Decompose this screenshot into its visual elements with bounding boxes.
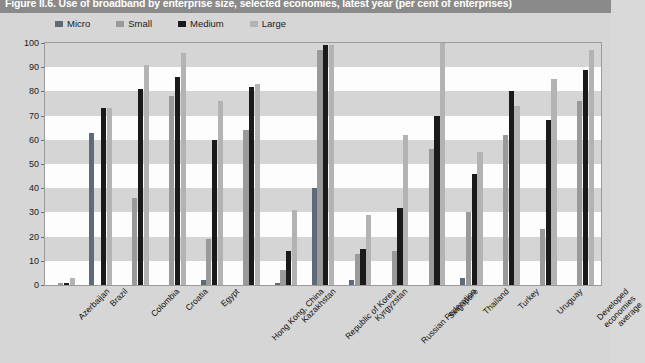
bar-group [571, 43, 594, 285]
bar-group [497, 43, 520, 285]
y-axis-tick-label: 50 [1, 159, 39, 169]
bar-large [218, 101, 223, 285]
bar-large [255, 84, 260, 285]
bar-small [466, 212, 471, 285]
bar-large [107, 108, 112, 285]
x-axis-label: Turkey [517, 287, 542, 312]
y-axis-tick-label: 20 [1, 232, 39, 242]
legend-swatch-icon [178, 21, 186, 27]
bar-micro [201, 280, 206, 285]
bar-group [52, 43, 75, 285]
y-axis-tick-label: 30 [1, 207, 39, 217]
bar-medium [138, 89, 143, 285]
bar-small [503, 135, 508, 285]
y-axis-tick-label: 80 [1, 86, 39, 96]
bar-small [429, 149, 434, 285]
bar-medium [434, 116, 439, 285]
y-axis-tick-label: 70 [1, 111, 39, 121]
bar-small [280, 270, 285, 285]
y-axis-tick-label: 0 [1, 280, 39, 290]
bar-large [329, 45, 334, 285]
bar-group [460, 43, 483, 285]
legend-swatch-icon [250, 21, 258, 27]
plot-area [44, 42, 602, 286]
bar-group [312, 43, 335, 285]
x-axis-label: Hong Kong, China [270, 287, 326, 343]
bar-medium [212, 140, 217, 285]
bar-small [243, 130, 248, 285]
bar-large [514, 106, 519, 285]
bars-layer [45, 43, 601, 285]
bar-small [169, 96, 174, 285]
page-title: Figure II.6. Use of broadband by enterpr… [5, 0, 512, 9]
bar-micro [275, 283, 280, 285]
bar-small [540, 229, 545, 285]
bar-large [366, 215, 371, 285]
bar-group [534, 43, 557, 285]
bar-group [201, 43, 224, 285]
x-axis-label: Egypt [219, 287, 241, 309]
bar-small [577, 101, 582, 285]
y-axis-tick-label: 100 [1, 38, 39, 48]
bar-group [238, 43, 261, 285]
x-axis-label: Croatia [184, 287, 210, 313]
bar-group [423, 43, 446, 285]
bar-group [386, 43, 409, 285]
legend-swatch-icon [55, 21, 63, 27]
x-axis-label: Developed economies average [595, 287, 644, 336]
legend-label: Large [262, 18, 286, 30]
bar-large [551, 79, 556, 285]
bar-medium [397, 208, 402, 285]
x-axis-label: Uruguay [556, 287, 585, 316]
figure-title-bar: Figure II.6. Use of broadband by enterpr… [0, 0, 611, 13]
bar-micro [89, 133, 94, 285]
legend-swatch-icon [116, 21, 124, 27]
bar-group [126, 43, 149, 285]
bar-large [70, 278, 75, 285]
bar-micro [312, 188, 317, 285]
bar-group [163, 43, 186, 285]
y-axis-tick-label: 10 [1, 256, 39, 266]
bar-large [403, 135, 408, 285]
bar-large [477, 152, 482, 285]
bar-large [440, 43, 445, 285]
y-axis-tick-label: 90 [1, 62, 39, 72]
bar-medium [583, 70, 588, 285]
y-axis-tick-label: 40 [1, 183, 39, 193]
bar-medium [323, 45, 328, 285]
bar-medium [249, 87, 254, 285]
chart-legend: MicroSmallMediumLarge [55, 18, 286, 30]
bar-medium [175, 77, 180, 285]
x-axis-label: Colombia [149, 287, 181, 319]
bar-medium [546, 120, 551, 285]
x-axis-label: Thailand [482, 287, 512, 317]
bar-large [144, 65, 149, 285]
x-axis-labels: AzerbaijanBrazilColombiaCroatiaEgyptHong… [44, 287, 602, 363]
y-axis: 0102030405060708090100 [0, 42, 44, 286]
bar-large [589, 50, 594, 285]
bar-medium [101, 108, 106, 285]
bar-micro [349, 280, 354, 285]
bar-small [206, 239, 211, 285]
bar-medium [286, 251, 291, 285]
legend-item-medium: Medium [178, 18, 224, 30]
bar-small [317, 50, 322, 285]
bar-medium [472, 174, 477, 285]
y-axis-tick-label: 60 [1, 135, 39, 145]
bar-small [58, 283, 63, 285]
legend-label: Medium [190, 18, 224, 30]
bar-micro [460, 278, 465, 285]
bar-small [392, 251, 397, 285]
bar-large [181, 53, 186, 285]
legend-label: Micro [67, 18, 90, 30]
bar-medium [509, 91, 514, 285]
bar-large [292, 210, 297, 285]
legend-item-large: Large [250, 18, 286, 30]
bar-group [349, 43, 372, 285]
legend-item-micro: Micro [55, 18, 90, 30]
bar-medium [64, 283, 69, 285]
bar-group [275, 43, 298, 285]
x-axis-label: Brazil [108, 287, 130, 309]
bar-small [355, 254, 360, 285]
